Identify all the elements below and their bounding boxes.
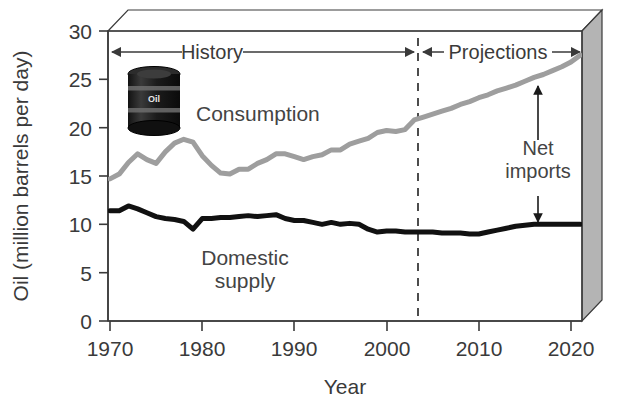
y-tick-label-5: 5	[80, 262, 92, 285]
x-tick-label-2020: 2020	[548, 337, 595, 360]
domestic-supply-label-line1: Domestic	[201, 246, 289, 269]
x-tick-label-1970: 1970	[87, 337, 134, 360]
net-imports-label-line1: Net	[522, 137, 554, 159]
chart-svg: 30 25 20 15 10 5 0 Oil (million barrels …	[0, 0, 627, 415]
domestic-supply-label-line2: supply	[215, 269, 276, 292]
x-tick-label-2010: 2010	[456, 337, 503, 360]
oil-barrel-icon: Oil	[128, 67, 180, 136]
net-imports-annotation: Net imports	[505, 86, 571, 222]
x-tick-label-1990: 1990	[271, 337, 318, 360]
x-axis: 1970 1980 1990 2000 2010 2020 Year	[87, 321, 595, 398]
y-axis: 30 25 20 15 10 5 0 Oil (million barrels …	[9, 20, 108, 333]
x-axis-title: Year	[324, 375, 366, 398]
panel-top-face	[108, 10, 602, 31]
history-label: History	[181, 41, 243, 63]
series-group	[110, 55, 580, 234]
y-tick-label-10: 10	[69, 213, 92, 236]
oil-supply-consumption-chart: 30 25 20 15 10 5 0 Oil (million barrels …	[0, 0, 627, 415]
panel-right-face	[582, 10, 602, 321]
y-axis-title: Oil (million barrels per day)	[9, 51, 32, 302]
net-imports-label-line2: imports	[505, 160, 571, 182]
y-tick-label-0: 0	[80, 310, 92, 333]
y-tick-label-20: 20	[69, 117, 92, 140]
consumption-label: Consumption	[196, 102, 320, 125]
y-tick-label-15: 15	[69, 165, 92, 188]
y-tick-label-30: 30	[69, 20, 92, 43]
x-tick-label-1980: 1980	[179, 337, 226, 360]
domestic-supply-line	[110, 206, 580, 234]
x-tick-label-2000: 2000	[364, 337, 411, 360]
period-bands: History Projections	[112, 41, 580, 63]
barrel-oil-text: Oil	[148, 94, 160, 104]
projections-label: Projections	[449, 41, 548, 63]
y-tick-label-25: 25	[69, 68, 92, 91]
